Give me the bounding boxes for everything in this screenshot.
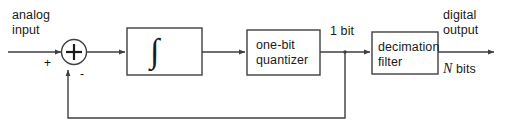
quantizer-block-label-line1: one-bit [256,38,295,52]
integral-symbol-icon: ∫ [150,34,159,68]
block-integrator [127,28,202,75]
plus-sign-label: + [44,57,51,69]
diagram-canvas: analoginput + - ∫ one-bitquantizer 1 bit… [0,0,505,134]
decimation-filter-label-line1: decimation [378,40,439,54]
minus-sign-label: - [80,68,84,80]
digital-output-label: digitaloutput [443,8,478,37]
one-bit-label: 1 bit [330,24,354,39]
digital-output-label-line2: output [443,23,478,37]
analog-input-label-line1: analog [12,8,50,22]
analog-input-label-line2: input [12,23,40,37]
quantizer-block-label: one-bitquantizer [256,38,308,67]
decimation-filter-block-label: decimationfilter [378,40,439,69]
analog-input-label: analoginput [12,8,50,37]
quantizer-block-label-line2: quantizer [256,53,308,67]
digital-output-label-line1: digital [443,8,476,22]
decimation-filter-label-line2: filter [378,55,402,69]
n-bits-unit: bits [452,62,475,76]
n-bits-label: N bits [443,62,476,77]
